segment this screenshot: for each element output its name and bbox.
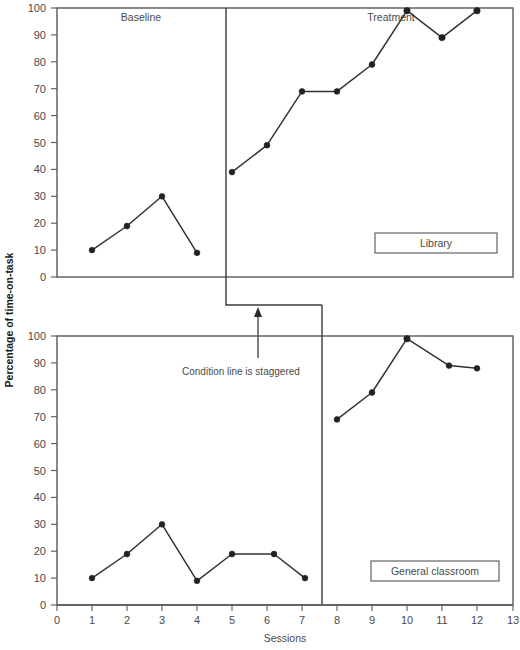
- y-tick-label: 10: [34, 572, 46, 584]
- y-tick-label: 30: [34, 190, 46, 202]
- data-point: [229, 169, 235, 175]
- x-tick-label: 1: [89, 614, 95, 626]
- condition-line-staggered: [225, 8, 322, 605]
- setting-label-library: Library: [420, 237, 453, 249]
- data-point: [299, 89, 305, 95]
- y-tick-label: 60: [34, 438, 46, 450]
- data-point: [194, 250, 200, 256]
- x-tick-label: 2: [124, 614, 130, 626]
- x-tick-label: 3: [159, 614, 165, 626]
- x-tick-label: 0: [54, 614, 60, 626]
- panel-general-classroom-y-axis: 0 10 20 30 40 50 60 70 80 90 100: [28, 330, 57, 611]
- y-tick-label: 40: [34, 163, 46, 175]
- figure-container: Percentage of time-on-task 0 10 20: [0, 0, 520, 650]
- phase-label-baseline: Baseline: [121, 11, 161, 23]
- data-point: [89, 247, 95, 253]
- data-point: [271, 551, 277, 557]
- series-line-treatment-classroom: [337, 339, 477, 420]
- data-point: [302, 575, 308, 581]
- data-point: [159, 521, 165, 527]
- data-point: [474, 8, 480, 14]
- x-axis: 0 1 2 3 4 5 6 7 8 9 10 11 12 13 Sessions: [54, 605, 519, 644]
- data-point: [89, 575, 95, 581]
- x-tick-label: 10: [401, 614, 413, 626]
- data-point: [124, 223, 130, 229]
- y-tick-label: 50: [34, 137, 46, 149]
- data-point: [334, 89, 340, 95]
- data-point: [474, 365, 480, 371]
- data-point: [369, 62, 375, 68]
- data-point: [334, 417, 340, 423]
- y-tick-label: 30: [34, 518, 46, 530]
- data-point: [439, 34, 445, 40]
- y-tick-label: 70: [34, 411, 46, 423]
- y-tick-label: 90: [34, 29, 46, 41]
- y-tick-label: 10: [34, 244, 46, 256]
- data-point: [404, 8, 410, 14]
- data-point: [446, 363, 452, 369]
- data-point: [194, 578, 200, 584]
- panel-library: 0 10 20 30 40 50 60 70 80 90 100 Baselin…: [28, 2, 513, 283]
- annotation-arrow-head: [254, 307, 262, 317]
- y-tick-label: 50: [34, 465, 46, 477]
- y-tick-label: 20: [34, 217, 46, 229]
- y-axis-title: Percentage of time-on-task: [3, 252, 15, 387]
- y-tick-label: 0: [40, 271, 46, 283]
- setting-label-general-classroom: General classroom: [391, 565, 479, 577]
- x-tick-label: 5: [229, 614, 235, 626]
- y-tick-label: 80: [34, 56, 46, 68]
- y-tick-label: 90: [34, 357, 46, 369]
- x-tick-label: 12: [471, 614, 483, 626]
- x-tick-label: 4: [194, 614, 200, 626]
- x-tick-label: 9: [369, 614, 375, 626]
- y-tick-label: 100: [28, 330, 46, 342]
- y-tick-label: 100: [28, 2, 46, 14]
- y-tick-label: 70: [34, 83, 46, 95]
- annotation-condition-line: Condition line is staggered: [182, 307, 300, 377]
- x-axis-title: Sessions: [264, 632, 307, 644]
- data-point: [159, 193, 165, 199]
- data-point: [369, 390, 375, 396]
- y-tick-label: 40: [34, 491, 46, 503]
- data-point: [229, 551, 235, 557]
- x-tick-label: 6: [264, 614, 270, 626]
- y-tick-label: 0: [40, 599, 46, 611]
- y-tick-label: 80: [34, 384, 46, 396]
- x-tick-label: 8: [334, 614, 340, 626]
- chart-svg: Percentage of time-on-task 0 10 20: [0, 0, 520, 650]
- annotation-text: Condition line is staggered: [182, 366, 300, 377]
- data-point: [264, 142, 270, 148]
- x-tick-label: 7: [299, 614, 305, 626]
- x-tick-label: 11: [436, 614, 447, 626]
- y-tick-label: 20: [34, 545, 46, 557]
- panel-library-y-axis: 0 10 20 30 40 50 60 70 80 90 100: [28, 2, 57, 283]
- x-tick-label: 13: [507, 614, 519, 626]
- data-point: [124, 551, 130, 557]
- data-point: [404, 336, 410, 342]
- series-line-baseline-library: [92, 196, 197, 253]
- y-tick-label: 60: [34, 110, 46, 122]
